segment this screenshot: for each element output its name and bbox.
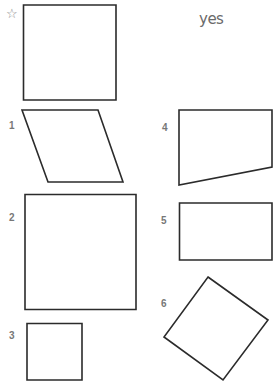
option-shape-5-rectangle[interactable] <box>180 203 273 260</box>
option-shape-1-parallelogram[interactable] <box>22 110 123 182</box>
option-shape-4-trapezoid[interactable] <box>179 110 272 185</box>
option-shape-6-rotated-square[interactable] <box>164 277 268 380</box>
shapes-canvas <box>0 0 279 383</box>
option-shape-3-square[interactable] <box>27 324 82 381</box>
option-shape-2-square[interactable] <box>25 195 136 310</box>
reference-square <box>24 5 117 100</box>
